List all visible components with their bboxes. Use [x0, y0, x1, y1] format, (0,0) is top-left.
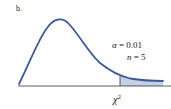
- alpha-annotation: α = 0.01: [112, 40, 142, 50]
- alpha-value: = 0.01: [119, 40, 142, 50]
- n-annotation: n = 5: [127, 52, 146, 62]
- n-symbol: n: [127, 52, 132, 62]
- critical-value-label: χ2: [113, 92, 121, 105]
- panel-label: b.: [16, 4, 22, 14]
- alpha-symbol: α: [112, 40, 117, 50]
- chi-exponent: 2: [117, 93, 121, 101]
- n-value: = 5: [134, 52, 146, 62]
